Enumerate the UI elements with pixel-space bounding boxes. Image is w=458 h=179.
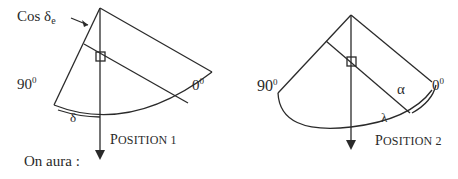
angle-0-value: 0	[192, 77, 200, 93]
angle-0-value: 0	[432, 77, 440, 93]
caption-rest: OSITION 1	[118, 133, 177, 147]
lambda-arc-label: λ	[381, 111, 387, 124]
cos-text: Cos δ	[17, 8, 51, 24]
angle-90-value: 90	[257, 77, 273, 94]
position-2-caption: POSITION 2	[375, 134, 442, 148]
arc-2	[278, 90, 432, 128]
angle-0-label-2: 00	[432, 77, 444, 93]
footer-text: On aura :	[24, 154, 80, 169]
perpendicular-2	[326, 41, 410, 113]
delta-arc-1	[58, 110, 100, 117]
left-edge-2	[278, 15, 351, 93]
cos-delta-label: Cos δe	[17, 9, 56, 26]
caption-initial: P	[375, 133, 383, 148]
angle-90-value: 90	[17, 76, 32, 92]
caption-initial: P	[110, 132, 118, 147]
arrow-head-2	[346, 140, 356, 150]
angle-90-label-1: 900	[17, 76, 37, 92]
arc-1	[54, 72, 212, 115]
position-1-figure	[54, 8, 212, 152]
degree-mark: 0	[273, 77, 278, 87]
degree-mark: 0	[32, 75, 37, 85]
position-1-caption: POSITION 1	[110, 133, 177, 147]
cos-subscript: e	[51, 15, 55, 26]
position-2-figure	[278, 15, 436, 142]
angle-0-label-1: 00	[192, 77, 204, 93]
delta-arc-label: δ	[70, 111, 76, 124]
left-edge-1	[54, 8, 100, 105]
degree-mark: 0	[440, 76, 445, 86]
alpha-label: α	[397, 82, 405, 97]
right-edge-2	[351, 15, 432, 82]
angle-90-label-2: 900	[257, 78, 278, 94]
caption-rest: OSITION 2	[383, 134, 442, 148]
degree-mark: 0	[200, 76, 205, 86]
arrow-head-1	[95, 150, 105, 160]
